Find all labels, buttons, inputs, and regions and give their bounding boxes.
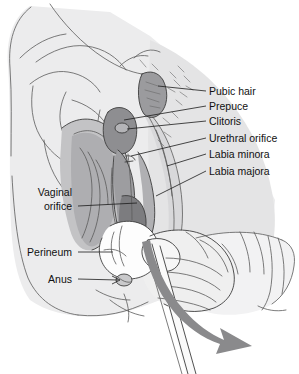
label-prepuce: Prepuce (209, 100, 248, 112)
label-labia-majora: Labia majora (209, 165, 270, 177)
label-labia-minora: Labia minora (209, 148, 270, 160)
label-clitoris: Clitoris (209, 115, 241, 127)
clitoris-marker (115, 123, 129, 133)
label-vaginal-orifice-line2: orifice (44, 200, 72, 212)
label-urethral-orifice: Urethral orifice (209, 132, 277, 144)
figure-canvas: Pubic hair Prepuce Clitoris Urethral ori… (0, 0, 299, 374)
label-vaginal-orifice-line1: Vaginal (38, 186, 72, 198)
anatomical-figure: Pubic hair Prepuce Clitoris Urethral ori… (0, 0, 299, 374)
anus-marker (116, 274, 132, 286)
label-anus: Anus (48, 273, 72, 285)
label-perineum: Perineum (27, 246, 72, 258)
label-pubic-hair: Pubic hair (209, 85, 256, 97)
